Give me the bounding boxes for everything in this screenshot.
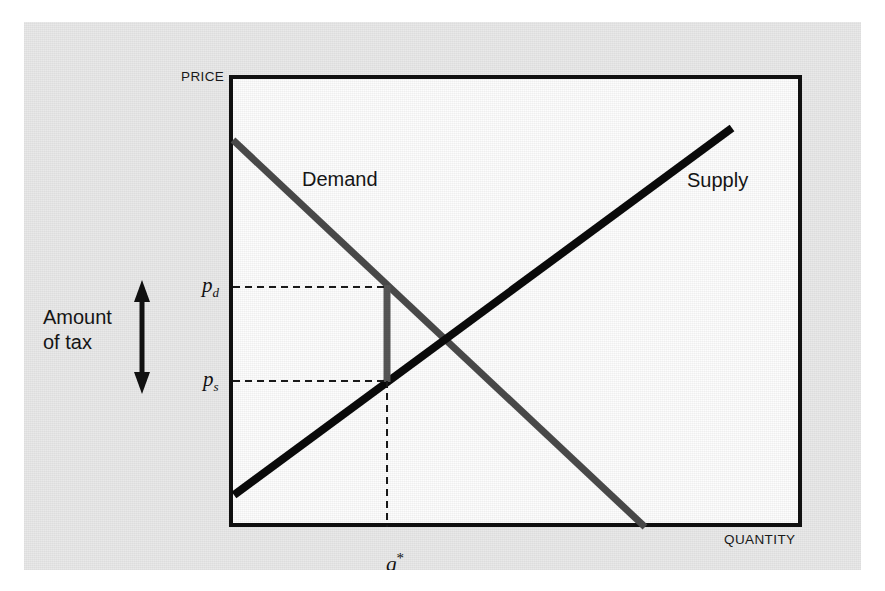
supply-curve-label: Supply <box>687 169 748 192</box>
tax-amount-line-2: of tax <box>43 330 112 355</box>
y-axis-label: PRICE <box>181 69 224 84</box>
price-supply-label: ps <box>203 367 219 395</box>
tax-amount-arrow <box>134 280 150 394</box>
tax-amount-line-1: Amount <box>43 305 112 330</box>
price-demand-label: pd <box>202 273 219 301</box>
quantity-star-superscript: * <box>397 550 405 566</box>
demand-curve <box>233 140 645 527</box>
x-axis-label: QUANTITY <box>724 532 795 547</box>
quantity-star-symbol: q <box>386 552 397 570</box>
price-supply-symbol: p <box>203 367 214 391</box>
quantity-star-label: q* <box>386 550 404 570</box>
demand-curve-label: Demand <box>302 168 378 191</box>
tax-amount-label: Amount of tax <box>43 305 112 355</box>
figure-panel: PRICE QUANTITY Demand Supply pd ps q* Am… <box>24 22 861 570</box>
price-demand-subscript: d <box>213 285 220 300</box>
chart-graphics <box>24 22 861 570</box>
price-supply-subscript: s <box>214 379 219 394</box>
price-demand-symbol: p <box>202 273 213 297</box>
